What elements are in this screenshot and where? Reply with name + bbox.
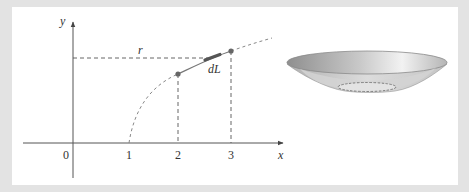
dL-label: dL — [208, 63, 221, 75]
curve-dashed-left — [129, 74, 178, 143]
point-x3 — [228, 48, 233, 53]
point-x2 — [175, 71, 180, 76]
arc-length-surface-diagram — [0, 0, 469, 192]
bowl-rim — [287, 51, 447, 74]
curve-dashed-right — [231, 38, 272, 51]
dL-segment — [205, 55, 220, 61]
x-tick-2: 2 — [175, 149, 181, 161]
x-tick-0: 0 — [63, 149, 69, 161]
x-tick-3: 3 — [228, 149, 234, 161]
y-axis-label: y — [60, 15, 65, 27]
x-tick-1: 1 — [126, 149, 132, 161]
x-axis-label: x — [278, 149, 283, 161]
curve-solid-segment — [178, 51, 231, 74]
bowl-bottom-circle — [338, 83, 396, 92]
radius-label: r — [138, 44, 143, 56]
